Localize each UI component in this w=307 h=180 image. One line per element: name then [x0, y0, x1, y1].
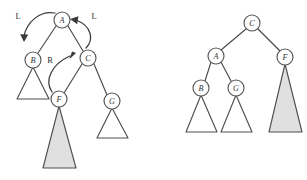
arrow-a-to-b-head [20, 34, 28, 42]
node-c-left[interactable]: C [80, 50, 96, 66]
edge-c-g [94, 64, 107, 95]
arrow-c-to-a-head [70, 16, 78, 24]
edge-c-a-right [221, 29, 246, 50]
subtree-triangle-g-right [221, 95, 252, 132]
edge-a-b [38, 26, 56, 53]
edge-c-f-right [258, 29, 280, 51]
edge-a-g-right [221, 62, 231, 81]
node-label-a-right: A [212, 52, 219, 61]
node-label-f-left: F [55, 95, 62, 104]
right-tree-subtrees [186, 64, 302, 132]
node-a-left[interactable]: A [54, 12, 70, 28]
subtree-triangle-f [43, 106, 76, 168]
node-label-g-left: G [109, 97, 115, 106]
rotation-label-right: R [47, 55, 53, 65]
subtree-triangle-f-right [269, 64, 302, 132]
node-label-b-left: B [30, 56, 35, 65]
left-tree-subtrees [17, 67, 128, 168]
node-label-a-left: A [58, 16, 65, 25]
node-b-left[interactable]: B [25, 52, 41, 68]
after-rotation-tree: C A F B G [186, 15, 302, 132]
arrow-f-to-c-head [69, 52, 76, 60]
node-label-f-right: F [281, 53, 288, 62]
node-label-b-right: B [198, 84, 203, 93]
node-g-right[interactable]: G [228, 80, 244, 96]
edge-c-f [64, 64, 82, 93]
node-a-right[interactable]: A [208, 48, 224, 64]
edge-a-b-right [205, 62, 211, 81]
rotation-label-left-inner: L [91, 11, 96, 21]
diagram-canvas: A B C F G [0, 0, 307, 180]
node-b-right[interactable]: B [193, 80, 209, 96]
node-c-right[interactable]: C [244, 15, 260, 31]
node-label-c-left: C [85, 54, 91, 63]
tree-rotation-figure: A B C F G [0, 0, 307, 180]
node-f-left[interactable]: F [51, 91, 67, 107]
arrow-a-to-b-curve [24, 13, 55, 36]
before-rotation-tree: A B C F G [15, 11, 128, 168]
rotation-label-left-outer: L [15, 11, 20, 21]
node-f-right[interactable]: F [277, 49, 293, 65]
node-label-c-right: C [249, 19, 255, 28]
node-label-g-right: G [233, 84, 239, 93]
subtree-triangle-g [97, 108, 128, 138]
subtree-triangle-b [17, 67, 49, 99]
subtree-triangle-b-right [186, 95, 217, 132]
edge-a-c [68, 26, 83, 51]
node-g-left[interactable]: G [104, 93, 120, 109]
